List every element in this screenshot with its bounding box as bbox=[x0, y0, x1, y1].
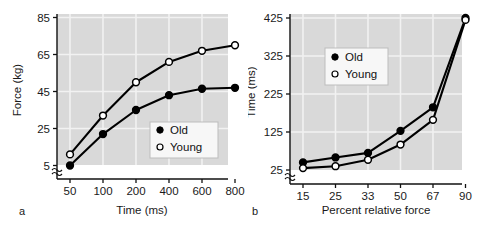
x-tick-label: 15 bbox=[297, 190, 310, 202]
panel-label-a: a bbox=[19, 205, 26, 217]
legend: OldYoung bbox=[325, 48, 388, 85]
x-tick-label: 90 bbox=[459, 190, 472, 202]
x-tick-label: 50 bbox=[64, 185, 77, 197]
x-tick-label: 100 bbox=[93, 185, 112, 197]
y-tick-label: 25 bbox=[270, 164, 283, 176]
x-axis-title: Time (ms) bbox=[116, 204, 167, 216]
x-tick-label: 400 bbox=[159, 185, 178, 197]
data-point-open bbox=[397, 141, 404, 148]
x-axis-ticks: 50100200400600800 bbox=[64, 179, 245, 197]
data-point-filled bbox=[365, 150, 372, 157]
y-tick-label: 25 bbox=[37, 123, 50, 135]
data-point-filled bbox=[199, 85, 206, 92]
y-tick-label: 45 bbox=[37, 86, 50, 98]
y-tick-label: 125 bbox=[264, 126, 283, 138]
legend: OldYoung bbox=[150, 122, 218, 158]
x-tick-label: 33 bbox=[362, 190, 375, 202]
data-point-filled bbox=[397, 127, 404, 134]
data-point-open bbox=[300, 165, 307, 172]
data-point-filled bbox=[232, 84, 239, 91]
data-point-open bbox=[199, 47, 206, 54]
legend-marker-open-circle bbox=[332, 71, 338, 77]
data-point-filled bbox=[67, 162, 74, 169]
x-tick-label: 50 bbox=[394, 190, 407, 202]
y-axis-title: Force (kg) bbox=[11, 64, 23, 117]
legend-label: Young bbox=[345, 68, 377, 80]
x-axis-ticks: 152533506790 bbox=[297, 184, 472, 202]
y-tick-label: 5 bbox=[44, 160, 50, 172]
data-point-open bbox=[332, 163, 339, 170]
x-tick-label: 200 bbox=[126, 185, 145, 197]
data-point-filled bbox=[332, 154, 339, 161]
data-point-filled bbox=[100, 131, 107, 138]
chart-panel-a: 52545658550100200400600800OldYoungForce … bbox=[0, 0, 248, 235]
x-tick-label: 600 bbox=[192, 185, 211, 197]
y-tick-label: 65 bbox=[37, 49, 50, 61]
y-tick-label: 85 bbox=[37, 12, 50, 24]
chart-panel-b: 25125225325425152533506790OldYoungTime (… bbox=[248, 0, 497, 235]
legend-marker-filled-circle bbox=[332, 54, 338, 60]
legend-marker-open-circle bbox=[157, 144, 163, 150]
legend-marker-filled-circle bbox=[157, 127, 163, 133]
data-point-open bbox=[166, 59, 173, 66]
y-axis-title: Time (ms) bbox=[248, 66, 257, 117]
x-tick-label: 800 bbox=[225, 185, 244, 197]
data-point-open bbox=[462, 17, 469, 24]
y-axis-ticks: 25125225325425 bbox=[264, 12, 290, 176]
data-point-open bbox=[67, 151, 74, 158]
data-point-open bbox=[100, 112, 107, 119]
panel-label-b: b bbox=[252, 205, 258, 217]
x-tick-label: 67 bbox=[427, 190, 440, 202]
y-tick-label: 325 bbox=[264, 50, 283, 62]
y-tick-label: 425 bbox=[264, 12, 283, 24]
y-axis-ticks: 525456585 bbox=[37, 12, 57, 172]
x-axis-title: Percent relative force bbox=[322, 204, 431, 216]
data-point-open bbox=[365, 156, 372, 163]
data-point-open bbox=[232, 42, 239, 49]
y-tick-label: 225 bbox=[264, 88, 283, 100]
data-point-open bbox=[430, 116, 437, 123]
figure-container: 52545658550100200400600800OldYoungForce … bbox=[0, 0, 497, 235]
x-tick-label: 25 bbox=[329, 190, 342, 202]
legend-label: Old bbox=[345, 51, 363, 63]
data-point-filled bbox=[166, 92, 173, 99]
data-point-open bbox=[133, 79, 140, 86]
data-point-filled bbox=[133, 107, 140, 114]
legend-label: Young bbox=[170, 141, 202, 153]
legend-label: Old bbox=[170, 124, 188, 136]
